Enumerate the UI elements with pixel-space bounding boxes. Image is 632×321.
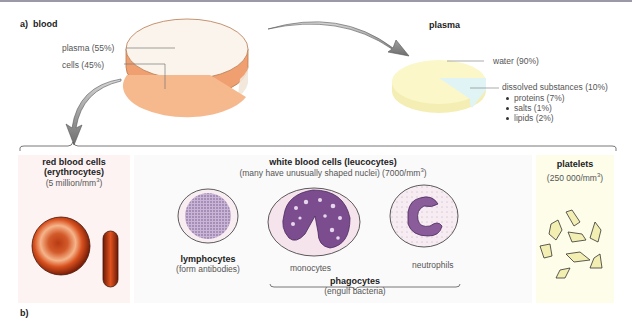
water-slice-label: water (90%) [493, 56, 539, 66]
dissolved-breakdown-list: proteins (7%) salts (1%) lipids (2%) [504, 93, 565, 123]
phagocytes-note: (engulf bacteria) [310, 286, 400, 296]
monocytes-label: monocytes [290, 263, 331, 273]
rbc-side-illustration [103, 231, 118, 287]
part-b-label: b) [20, 308, 29, 318]
rbc-face-illustration [32, 217, 90, 275]
dissolved-item: salts (1%) [514, 103, 565, 113]
phagocytes-name: phagocytes [310, 276, 400, 286]
neutrophil-illustration [390, 185, 458, 247]
lymphocytes-name: lymphocytes [168, 254, 248, 264]
arrow-to-cells [66, 79, 121, 145]
platelets-illustration [540, 210, 602, 278]
lymphocytes-label-group: lymphocytes (form antibodies) [168, 254, 248, 274]
phagocytes-label-group: phagocytes (engulf bacteria) [310, 276, 400, 296]
cells-slice-label: cells (45%) [62, 60, 104, 70]
dissolved-item: proteins (7%) [514, 93, 565, 103]
dissolved-slice-label: dissolved substances (10%) [502, 82, 608, 92]
plasma-pie [392, 60, 499, 113]
lymphocytes-note: (form antibodies) [168, 264, 248, 274]
lymphocyte-illustration [178, 189, 238, 243]
neutrophils-label: neutrophils [412, 260, 454, 270]
monocyte-illustration [268, 188, 360, 256]
plasma-slice-label: plasma (55%) [62, 43, 114, 53]
diagram-graphics [0, 0, 632, 160]
arrow-to-plasma [268, 22, 409, 56]
blood-pie [123, 19, 249, 117]
plasma-pie-title: plasma [429, 20, 460, 30]
dissolved-item: lipids (2%) [514, 113, 565, 123]
